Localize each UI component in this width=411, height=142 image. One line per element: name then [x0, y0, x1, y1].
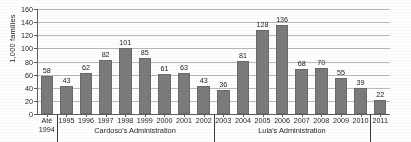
- bar-value-label: 81: [233, 52, 253, 60]
- y-tick-mark: [34, 114, 37, 115]
- bar-value-label: 36: [214, 81, 234, 89]
- bar[interactable]: [60, 86, 73, 114]
- bar-slot: 136: [272, 9, 292, 114]
- bar-slot: 68: [292, 9, 312, 114]
- x-axis-label: Até1994: [37, 116, 57, 134]
- x-axis-label: 2010: [351, 116, 371, 125]
- bar-series: 584362821018561634336811281366870553922: [37, 9, 390, 114]
- bar[interactable]: [217, 90, 230, 114]
- y-tick-label: 60: [25, 71, 33, 78]
- y-tick-label: 40: [25, 84, 33, 91]
- bar-slot: 36: [214, 9, 234, 114]
- bar-value-label: 43: [57, 77, 77, 85]
- bar-value-label: 82: [96, 51, 116, 59]
- bar[interactable]: [374, 100, 387, 114]
- x-axis-label: 1996: [76, 116, 96, 125]
- bar[interactable]: [295, 69, 308, 114]
- group-label: Lula's Administration: [214, 126, 371, 135]
- x-axis-label: 2006: [272, 116, 292, 125]
- plot-area: 020406080100120140160 584362821018561634…: [37, 9, 390, 114]
- bar-value-label: 55: [331, 69, 351, 77]
- bar-value-label: 58: [37, 67, 57, 75]
- bar-chart: 1,000 families 020406080100120140160 584…: [0, 0, 411, 142]
- bar-value-label: 62: [76, 64, 96, 72]
- bar[interactable]: [99, 60, 112, 114]
- bar-slot: 85: [135, 9, 155, 114]
- bar[interactable]: [197, 86, 210, 114]
- bar-slot: 81: [233, 9, 253, 114]
- y-tick-label: 160: [21, 6, 33, 13]
- bar-slot: 128: [253, 9, 273, 114]
- bar-slot: 62: [76, 9, 96, 114]
- bar[interactable]: [119, 48, 132, 114]
- bar[interactable]: [335, 78, 348, 114]
- x-axis-label: 1998: [115, 116, 135, 125]
- x-axis-label: 1997: [96, 116, 116, 125]
- bar-slot: 43: [194, 9, 214, 114]
- group-label: Cardoso's Administration: [57, 126, 214, 135]
- y-tick-label: 80: [25, 58, 33, 65]
- y-tick-label: 120: [21, 32, 33, 39]
- bar-slot: 58: [37, 9, 57, 114]
- bar[interactable]: [178, 73, 191, 114]
- bar-value-label: 22: [370, 91, 390, 99]
- bar[interactable]: [256, 30, 269, 114]
- x-axis-label: 2003: [214, 116, 234, 125]
- bar-value-label: 85: [135, 49, 155, 57]
- y-tick-label: 20: [25, 97, 33, 104]
- y-axis-title: 1,000 families: [8, 3, 17, 75]
- x-axis-label: 2004: [233, 116, 253, 125]
- bar[interactable]: [315, 68, 328, 114]
- x-axis-label: 1995: [57, 116, 77, 125]
- bar-value-label: 39: [351, 79, 371, 87]
- x-axis-label: 2001: [174, 116, 194, 125]
- bar-value-label: 61: [155, 65, 175, 73]
- bar-slot: 39: [351, 9, 371, 114]
- bar-value-label: 101: [115, 39, 135, 47]
- bar-slot: 101: [115, 9, 135, 114]
- bar-slot: 82: [96, 9, 116, 114]
- x-axis-label: 2007: [292, 116, 312, 125]
- x-axis-label: 2005: [253, 116, 273, 125]
- y-tick-label: 140: [21, 19, 33, 26]
- x-axis-label: 2011: [370, 116, 390, 125]
- bar-slot: 22: [370, 9, 390, 114]
- bar[interactable]: [354, 88, 367, 114]
- x-axis-label: 2002: [194, 116, 214, 125]
- x-axis-label: 2008: [312, 116, 332, 125]
- bar-slot: 63: [174, 9, 194, 114]
- bar-slot: 61: [155, 9, 175, 114]
- bar-value-label: 128: [253, 21, 273, 29]
- bar[interactable]: [80, 73, 93, 114]
- bar-slot: 55: [331, 9, 351, 114]
- bar-value-label: 63: [174, 64, 194, 72]
- bar[interactable]: [41, 76, 54, 114]
- bar-slot: 43: [57, 9, 77, 114]
- x-axis-label: 2000: [155, 116, 175, 125]
- bar[interactable]: [139, 58, 152, 114]
- group-separator: [370, 114, 371, 142]
- x-axis-label: 1999: [135, 116, 155, 125]
- bar-slot: 70: [312, 9, 332, 114]
- bar[interactable]: [276, 25, 289, 114]
- bar-value-label: 136: [272, 16, 292, 24]
- x-axis-label: 2009: [331, 116, 351, 125]
- bar[interactable]: [237, 61, 250, 114]
- bar-value-label: 43: [194, 77, 214, 85]
- bar[interactable]: [158, 74, 171, 114]
- bar-value-label: 70: [312, 59, 332, 67]
- bar-value-label: 68: [292, 60, 312, 68]
- y-tick-label: 0: [29, 111, 33, 118]
- y-tick-label: 100: [21, 45, 33, 52]
